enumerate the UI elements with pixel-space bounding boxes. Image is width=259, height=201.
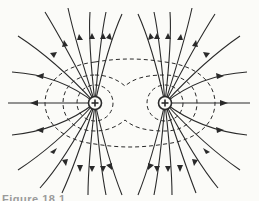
charge-right (159, 97, 172, 110)
figure-caption: Figure 18.1 (2, 193, 66, 201)
charge-left (89, 97, 102, 110)
field-diagram (0, 0, 259, 201)
